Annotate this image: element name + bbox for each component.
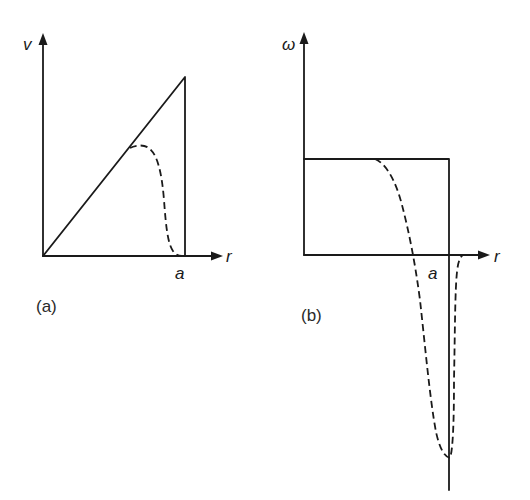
panel-b: ω r a (b) [282, 32, 501, 490]
omega-axis-arrow-icon [300, 32, 309, 44]
v-axis-label: v [23, 35, 33, 54]
r-axis-b-label: r [494, 247, 501, 266]
smooth-velocity-profile [130, 146, 182, 257]
rankine-velocity-profile [43, 77, 185, 256]
a-marker-label-a: a [175, 264, 184, 283]
panel-a-caption: (a) [36, 297, 57, 316]
rankine-vorticity-profile [304, 159, 449, 490]
r-axis-a-label: r [226, 247, 233, 266]
panel-a: v r a (a) [23, 33, 233, 316]
omega-axis-label: ω [282, 35, 295, 54]
r-axis-b-arrow-icon [478, 251, 490, 260]
v-axis-arrow-icon [39, 33, 48, 45]
vortex-profiles-figure: v r a (a) ω r a (b) [0, 0, 530, 500]
r-axis-a-arrow-icon [211, 252, 223, 261]
panel-b-caption: (b) [301, 306, 322, 325]
a-marker-label-b: a [428, 264, 437, 283]
